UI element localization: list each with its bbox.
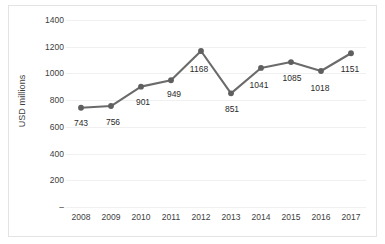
data-point-marker [78, 105, 84, 111]
data-point-label: 1018 [311, 83, 330, 93]
x-axis-tick-labels: 2008200920102011201220132014201520162017 [66, 212, 366, 230]
y-axis-tick-labels: 140012001000800600400200– [22, 0, 64, 244]
data-point-marker [168, 77, 174, 83]
data-point-marker [318, 68, 324, 74]
x-axis-tick: 2016 [312, 212, 331, 222]
data-point-marker [288, 59, 294, 65]
data-point-marker [108, 103, 114, 109]
data-point-label: 1151 [341, 64, 359, 74]
plot-area: 74375690194911688511041108510181151 [66, 20, 366, 207]
y-axis-tick: 400 [22, 149, 64, 159]
y-axis-tick: – [22, 202, 64, 212]
x-axis-tick: 2011 [162, 212, 180, 222]
y-axis-tick: 200 [22, 175, 64, 185]
x-axis-tick: 2012 [192, 212, 211, 222]
data-point-marker [258, 65, 264, 71]
y-axis-tick: 800 [22, 95, 64, 105]
series-line [66, 20, 366, 207]
data-point-label: 1085 [283, 73, 302, 83]
y-axis-tick: 600 [22, 122, 64, 132]
y-axis-tick: 1400 [22, 15, 64, 25]
y-axis-tick: 1200 [22, 42, 64, 52]
data-point-label: 949 [167, 89, 181, 99]
data-point-marker [228, 90, 234, 96]
data-point-marker [138, 84, 144, 90]
x-axis-tick: 2017 [342, 212, 361, 222]
data-point-label: 901 [136, 97, 150, 107]
x-axis-tick: 2009 [102, 212, 121, 222]
x-axis-tick: 2008 [72, 212, 91, 222]
y-axis-tick: 1000 [22, 68, 64, 78]
line-chart: USD millions 140012001000800600400200– 7… [0, 0, 385, 244]
x-axis-tick: 2014 [252, 212, 271, 222]
gridline [66, 207, 366, 208]
data-point-marker [348, 50, 354, 56]
data-point-label: 1041 [250, 80, 269, 90]
x-axis-tick: 2013 [222, 212, 241, 222]
data-point-label: 743 [74, 118, 88, 128]
data-point-label: 851 [225, 104, 239, 114]
x-axis-tick: 2010 [132, 212, 151, 222]
x-axis-tick: 2015 [282, 212, 301, 222]
data-point-label: 1168 [190, 64, 208, 74]
data-point-marker [198, 48, 204, 54]
data-point-label: 756 [106, 117, 120, 127]
